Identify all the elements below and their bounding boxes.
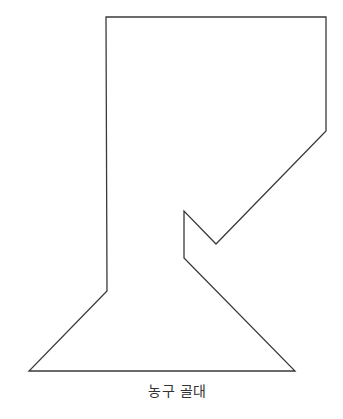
tangram-silhouette-outline <box>29 17 326 371</box>
basketball-hoop-tangram-outline <box>0 0 343 419</box>
diagram-caption: 농구 골대 <box>0 380 343 400</box>
